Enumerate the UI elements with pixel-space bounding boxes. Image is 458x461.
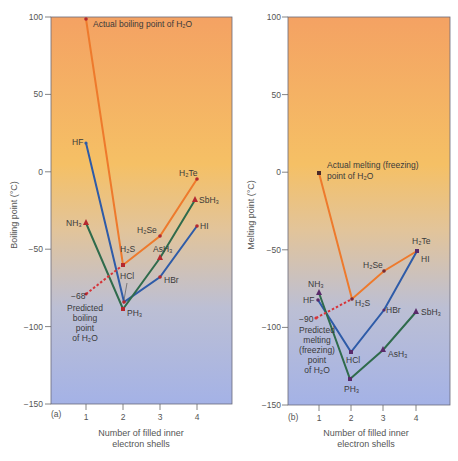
predicted-note-a-4: of H₂O xyxy=(72,333,98,343)
point-label-hi: HI xyxy=(200,221,209,231)
predicted-note-b-2: melting xyxy=(303,335,331,345)
x-axis-title-b-line2: electron shells xyxy=(337,439,395,449)
point-label-ash3-b: AsH₃ xyxy=(388,349,408,359)
predicted-note-b-5: of H₂O xyxy=(304,365,330,375)
panel-a-boiling-point: 100 50 0 −50 −100 −150 Boiling point (°C… xyxy=(9,12,232,449)
annotation-actual-bp: Actual boiling point of H₂O xyxy=(93,19,193,29)
point-label-h2s: H₂S xyxy=(120,244,135,254)
point-label-sbh3: SbH₃ xyxy=(199,195,219,205)
y-tick-label: −100 xyxy=(24,322,43,332)
y-axis-b xyxy=(282,17,288,405)
point-label-ash3: AsH₃ xyxy=(153,244,173,254)
x-axis-title-a-line1: Number of filled inner xyxy=(98,428,184,438)
y-tick-label: −50 xyxy=(267,245,282,255)
predicted-note-a-3: point xyxy=(76,323,95,333)
y-tick-label: 0 xyxy=(276,167,281,177)
annotation-actual-mp-1: Actual melting (freezing) xyxy=(327,160,419,170)
y-tick-label: 100 xyxy=(29,12,43,22)
annotation-actual-mp-2: point of H₂O xyxy=(327,171,374,181)
x-tick-label: 3 xyxy=(381,413,386,423)
predicted-note-a-2: boiling xyxy=(73,313,98,323)
y-tick-label: −100 xyxy=(262,322,281,332)
point-label-hcl: HCl xyxy=(120,271,134,281)
x-axis-a xyxy=(86,404,197,410)
point-label-h2se: H₂Se xyxy=(137,225,157,235)
panel-label-a: (a) xyxy=(51,409,62,419)
predicted-note-a-1: Predicted xyxy=(67,303,103,313)
y-tick-label: 50 xyxy=(272,90,282,100)
x-tick-label: 3 xyxy=(158,412,163,422)
plot-area-a xyxy=(51,17,232,404)
point-label-sbh3-b: SbH₃ xyxy=(421,307,441,317)
y-tick-label: −50 xyxy=(29,244,44,254)
point-label-hbr: HBr xyxy=(164,275,179,285)
x-axis-title-b-line1: Number of filled inner xyxy=(323,428,409,438)
x-tick-label: 1 xyxy=(84,412,89,422)
figure: 100 50 0 −50 −100 −150 Boiling point (°C… xyxy=(0,0,458,461)
predicted-note-b-3: (freezing) xyxy=(299,345,335,355)
predicted-note-b-4: point xyxy=(308,355,327,365)
point-label-hi-b: HI xyxy=(421,254,430,264)
point-label-h2te-b: H₂Te xyxy=(412,236,431,246)
y-tick-label: −150 xyxy=(24,399,43,409)
predicted-value-b: −90 xyxy=(299,314,314,324)
y-tick-label: −150 xyxy=(262,400,281,410)
point-label-nh3-b: NH₃ xyxy=(308,279,324,289)
predicted-value-a: −68 xyxy=(71,291,86,301)
x-tick-label: 2 xyxy=(349,413,354,423)
y-tick-label: 100 xyxy=(267,12,281,22)
point-label-hcl-b: HCl xyxy=(346,355,360,365)
y-axis-title-b: Melting point (°C) xyxy=(246,180,256,250)
point-label-ph3: PH₃ xyxy=(127,308,142,318)
x-tick-label: 1 xyxy=(317,413,322,423)
point-label-ph3-b: PH₃ xyxy=(344,384,359,394)
y-axis-title-a: Boiling point (°C) xyxy=(9,181,19,249)
x-tick-label: 2 xyxy=(121,412,126,422)
x-axis-b xyxy=(319,405,416,411)
predicted-note-b-1: Predicted xyxy=(299,325,335,335)
x-axis-title-a-line2: electron shells xyxy=(112,439,170,449)
y-tick-label: 50 xyxy=(34,89,44,99)
panel-b-melting-point: 100 50 0 −50 −100 −150 Melting point (°C… xyxy=(246,12,450,449)
point-label-hbr-b: HBr xyxy=(386,305,401,315)
point-label-h2s-b: H₂S xyxy=(355,298,370,308)
point-label-hf-b: HF xyxy=(303,295,314,305)
point-label-nh3: NH₃ xyxy=(66,218,82,228)
point-label-h2se-b: H₂Se xyxy=(363,260,383,270)
point-label-hf: HF xyxy=(72,137,83,147)
y-tick-label: 0 xyxy=(38,167,43,177)
y-axis-a xyxy=(45,17,51,404)
panel-label-b: (b) xyxy=(288,412,299,422)
point-label-h2te: H₂Te xyxy=(179,168,198,178)
x-tick-label: 4 xyxy=(195,412,200,422)
x-tick-label: 4 xyxy=(414,413,419,423)
